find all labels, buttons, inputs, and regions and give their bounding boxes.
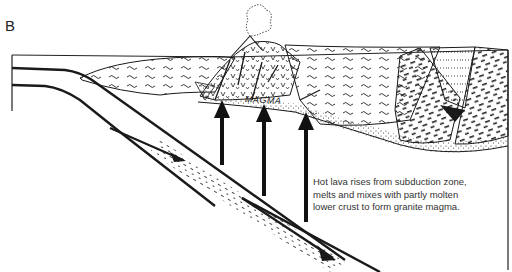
- geologic-cross-section: [0, 0, 512, 272]
- caption-line: Hot lava rises from subduction zone,: [313, 176, 512, 189]
- panel-label: B: [5, 17, 15, 34]
- caption-line: lower crust to form granite magma.: [313, 201, 512, 214]
- magma-label: MAGMA: [245, 94, 282, 106]
- caption-line: melts and mixes with partly molten: [313, 189, 512, 202]
- figure-caption: Hot lava rises from subduction zone, mel…: [313, 176, 512, 214]
- continental-crust: [80, 41, 508, 152]
